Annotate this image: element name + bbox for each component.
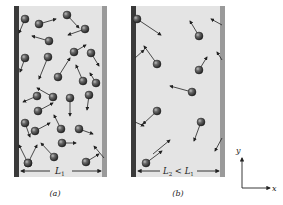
molecule-ball	[195, 66, 203, 74]
molecule-ball	[188, 88, 196, 96]
molecule-ball	[21, 54, 29, 62]
molecule-ball	[57, 125, 65, 133]
container-a	[14, 6, 107, 177]
molecule-ball	[31, 127, 39, 135]
molecule-ball	[50, 153, 58, 161]
molecule-ball	[33, 92, 41, 100]
gas-container-diagram: L1 (a) L2 < L1 (b) y x	[0, 0, 283, 205]
molecule-ball	[35, 20, 43, 28]
panel-a: L1 (a)	[14, 6, 107, 198]
molecule-ball	[63, 11, 71, 19]
container-b	[131, 6, 225, 177]
molecule-ball	[21, 119, 29, 127]
caption-b: (b)	[172, 189, 183, 198]
molecule-ball	[133, 15, 141, 23]
molecule-ball	[75, 125, 83, 133]
molecule-ball	[58, 139, 66, 147]
left-wall-a	[14, 6, 19, 177]
coordinate-axes: y x	[235, 146, 277, 193]
molecule-ball	[195, 32, 203, 40]
molecule-ball	[21, 15, 29, 23]
molecule-ball	[142, 159, 150, 167]
caption-a: (a)	[49, 189, 60, 198]
x-axis-label: x	[272, 184, 277, 193]
right-wall-b	[220, 6, 225, 177]
width-label-b: L2 < L1	[162, 166, 194, 177]
molecule-ball	[87, 49, 95, 57]
molecule-ball	[92, 79, 100, 87]
molecule-ball	[34, 107, 42, 115]
molecule-ball	[81, 25, 89, 33]
molecule-ball	[45, 37, 53, 45]
molecule-ball	[153, 107, 161, 115]
molecule-ball	[153, 60, 161, 68]
molecule-ball	[54, 73, 62, 81]
molecule-ball	[49, 93, 57, 101]
molecule-ball	[197, 118, 205, 126]
molecule-ball	[66, 94, 74, 102]
panel-b: L2 < L1 (b)	[131, 6, 225, 198]
left-wall-b	[131, 6, 136, 177]
molecule-ball	[44, 53, 52, 61]
molecule-ball	[79, 77, 87, 85]
molecule-ball	[82, 158, 90, 166]
molecule-ball	[85, 91, 93, 99]
molecule-ball	[70, 48, 78, 56]
y-axis-label: y	[235, 146, 241, 155]
molecule-ball	[24, 159, 32, 167]
right-wall-a	[102, 6, 107, 177]
